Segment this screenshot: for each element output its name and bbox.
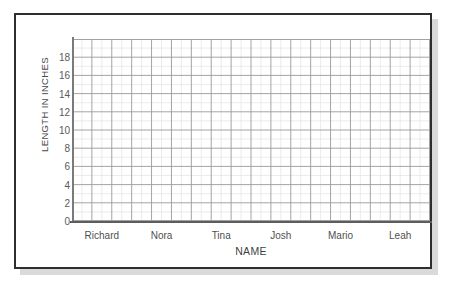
y-axis-tick-label: 0	[44, 216, 70, 227]
y-axis-tick-label: 2	[44, 197, 70, 208]
grid-lines	[72, 39, 430, 221]
y-axis-tick-label: 8	[44, 143, 70, 154]
y-axis-tick-label: 14	[44, 88, 70, 99]
x-axis-category-labels: RichardNoraTinaJoshMarioLeah	[72, 227, 430, 245]
screenshot-root: LENGTH IN INCHES 024681012141618 Richard…	[0, 0, 456, 287]
y-axis-tick-label: 12	[44, 106, 70, 117]
plot-area	[72, 39, 430, 221]
blank-bar-chart: LENGTH IN INCHES 024681012141618 Richard…	[16, 15, 430, 267]
x-axis-category-label: Richard	[72, 227, 132, 245]
x-axis-line	[70, 221, 432, 223]
x-axis-title: NAME	[72, 245, 430, 257]
y-axis-tick-label: 10	[44, 125, 70, 136]
y-axis-tick-label: 16	[44, 70, 70, 81]
y-axis-tick-label: 4	[44, 179, 70, 190]
x-axis-category-label: Josh	[251, 227, 311, 245]
x-axis-category-label: Mario	[311, 227, 371, 245]
x-axis-category-label: Tina	[191, 227, 251, 245]
y-axis-tick-label: 18	[44, 52, 70, 63]
x-axis-category-label: Nora	[132, 227, 192, 245]
y-axis-line	[72, 37, 74, 223]
y-axis-tick-label: 6	[44, 161, 70, 172]
y-axis-tick-labels: 024681012141618	[44, 39, 70, 221]
worksheet-panel: LENGTH IN INCHES 024681012141618 Richard…	[14, 13, 432, 269]
x-axis-category-label: Leah	[370, 227, 430, 245]
